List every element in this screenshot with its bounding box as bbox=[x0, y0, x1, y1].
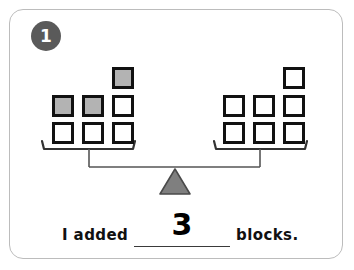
sentence-prefix-label: I added bbox=[62, 226, 128, 244]
answer-value[interactable]: 3 bbox=[134, 208, 230, 242]
right-block-mid-c1 bbox=[223, 95, 245, 117]
fulcrum-triangle bbox=[160, 169, 190, 194]
left-block-bot-c2 bbox=[82, 122, 104, 144]
left-block-top-c3 bbox=[112, 67, 134, 89]
sentence-suffix-label: blocks. bbox=[236, 226, 298, 244]
right-block-bot-c3 bbox=[283, 122, 305, 144]
worksheet-card: 1 bbox=[9, 9, 343, 259]
left-block-mid-c3 bbox=[112, 95, 134, 117]
answer-sentence: I added 3 blocks. bbox=[10, 206, 344, 260]
right-block-bot-c1 bbox=[223, 122, 245, 144]
right-block-mid-c2 bbox=[253, 95, 275, 117]
left-block-mid-c2 bbox=[82, 95, 104, 117]
left-block-bot-c3 bbox=[112, 122, 134, 144]
answer-blank-line[interactable] bbox=[134, 246, 230, 247]
right-block-mid-c3 bbox=[283, 95, 305, 117]
left-block-mid-c1 bbox=[52, 95, 74, 117]
right-block-top-c3 bbox=[283, 67, 305, 89]
right-block-bot-c2 bbox=[253, 122, 275, 144]
left-block-bot-c1 bbox=[52, 122, 74, 144]
balance-scale-illustration bbox=[10, 10, 344, 200]
